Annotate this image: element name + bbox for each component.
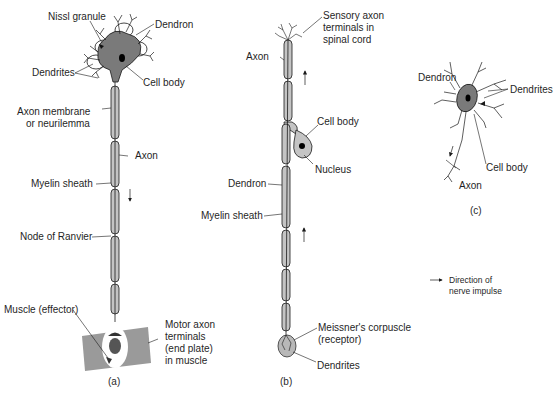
- label-motor-terminals-1: Motor axon: [165, 319, 215, 331]
- label-muscle-effector: Muscle (effector): [4, 304, 78, 316]
- label-myelin-sheath-a: Myelin sheath: [31, 178, 93, 190]
- caption-a: (a): [108, 376, 120, 387]
- nucleus-b: [299, 143, 305, 149]
- label-dendrites-c: Dendrites: [510, 84, 553, 96]
- label-meissner-corpuscle: Meissner's corpuscle: [318, 322, 411, 334]
- label-axon-b: Axon: [246, 51, 269, 63]
- label-axon-a: Axon: [135, 150, 158, 162]
- label-receptor: (receptor): [318, 334, 361, 346]
- caption-c: (c): [470, 205, 482, 216]
- label-sensory-terminals-3: spinal cord: [323, 34, 371, 46]
- caption-b: (b): [280, 376, 292, 387]
- label-axon-c: Axon: [459, 180, 482, 192]
- label-cell-body-a: Cell body: [143, 77, 185, 89]
- legend-direction-line2: nerve impulse: [449, 286, 502, 296]
- legend-direction-line1: Direction of: [449, 275, 492, 285]
- nucleus-a: [119, 54, 125, 62]
- label-myelin-sheath-b: Myelin sheath: [201, 210, 263, 222]
- label-sensory-terminals-2: terminals in: [323, 22, 374, 34]
- meissner-corpuscle: [278, 335, 296, 357]
- label-motor-terminals-3: (end plate): [165, 343, 213, 355]
- motor-neuron: [73, 14, 158, 371]
- label-sensory-terminals-1: Sensory axon: [323, 10, 384, 22]
- label-dendron-c: Dendron: [418, 72, 456, 84]
- neuron-diagram: [0, 0, 560, 397]
- label-nissl-granule: Nissl granule: [48, 11, 106, 23]
- label-axon-membrane: Axon membrane: [17, 106, 90, 118]
- label-motor-terminals-4: in muscle: [165, 355, 207, 367]
- label-neurilemma: or neurilemma: [26, 118, 90, 130]
- label-nucleus: Nucleus: [315, 164, 351, 176]
- label-dendrites-b: Dendrites: [317, 360, 360, 372]
- label-dendrites-a: Dendrites: [32, 67, 75, 79]
- label-dendron-a: Dendron: [155, 19, 193, 31]
- label-cell-body-c: Cell body: [486, 162, 528, 174]
- label-node-of-ranvier: Node of Ranvier: [20, 231, 92, 243]
- label-cell-body-b: Cell body: [317, 116, 359, 128]
- label-dendron-b: Dendron: [228, 178, 266, 190]
- sensory-neuron: [264, 17, 322, 362]
- label-motor-terminals-2: terminals: [165, 331, 206, 343]
